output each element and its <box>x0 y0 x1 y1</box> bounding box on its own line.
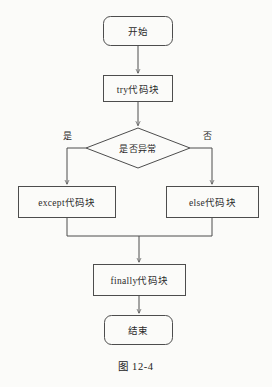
edge-decision-to-else <box>190 148 212 184</box>
figure-caption: 图 12-4 <box>0 358 272 373</box>
start-node-shape <box>104 17 173 46</box>
edge-label-no: 否 <box>203 129 212 142</box>
figure-canvas: 开始 try代码块 是否异常 except代码块 else代码块 finally… <box>0 0 272 387</box>
edge-label-yes: 是 <box>63 129 72 142</box>
edge-except-to-merge <box>67 218 139 237</box>
decision-node-shape <box>86 128 190 168</box>
except-node-shape <box>19 187 116 218</box>
edge-decision-to-except <box>67 148 86 184</box>
flowchart-graphics <box>0 0 272 387</box>
edge-else-to-merge <box>139 218 212 237</box>
finally-node-shape <box>94 265 186 296</box>
else-node-shape <box>167 187 259 218</box>
end-node-shape <box>105 316 173 345</box>
try-node-shape <box>104 76 173 102</box>
